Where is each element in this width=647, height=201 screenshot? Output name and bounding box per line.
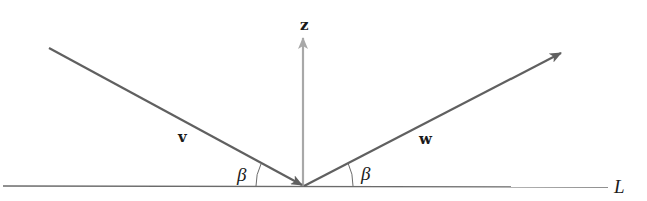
angle-arc-right: [348, 163, 353, 186]
angle-beta-right-label: β: [360, 163, 371, 184]
angle-beta-left-label: β: [236, 164, 247, 185]
vector-w: [304, 53, 561, 186]
vector-w-label: w: [418, 130, 433, 148]
vector-v-label: v: [177, 128, 188, 146]
vector-v: [49, 48, 302, 185]
vector-z-label: z: [300, 16, 309, 34]
angle-arc-left: [256, 164, 261, 186]
line-l-label: L: [613, 176, 625, 197]
reflection-diagram: L z v w β β: [0, 0, 647, 201]
